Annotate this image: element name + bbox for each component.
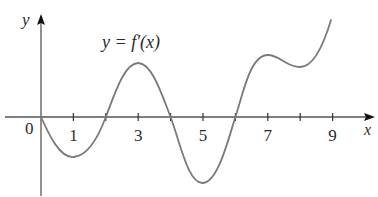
- xtick-label-7: 7: [264, 126, 273, 145]
- xtick-label-3: 3: [134, 126, 143, 145]
- curve-f-prime: [41, 20, 331, 183]
- chart: y x 0 1 3 5 7 9 y = f′(x): [0, 0, 378, 197]
- xtick-label-9: 9: [328, 126, 337, 145]
- x-axis-label: x: [363, 121, 371, 138]
- y-axis-label: y: [20, 10, 30, 29]
- xtick-label-5: 5: [199, 126, 208, 145]
- curve-label: y = f′(x): [100, 32, 160, 53]
- xtick-label-1: 1: [69, 126, 78, 145]
- origin-label: 0: [25, 119, 34, 138]
